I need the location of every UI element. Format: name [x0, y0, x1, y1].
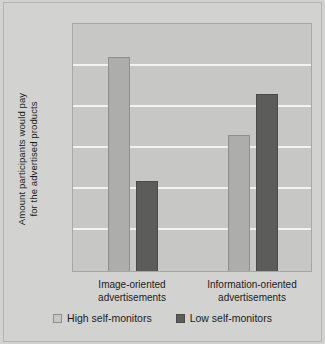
y-axis-title-text: Amount participants would pay for the ad…: [16, 93, 41, 225]
category-label-image-oriented: Image-oriented advertisements: [62, 278, 202, 304]
bar-low-self-monitors-group-1: [256, 94, 278, 271]
plot-area: [72, 23, 312, 272]
legend-label: High self-monitors: [67, 312, 152, 324]
bar-low-self-monitors-group-0: [136, 181, 158, 271]
bar-high-self-monitors-group-0: [108, 57, 130, 271]
legend-item-low-self-monitors[interactable]: Low self-monitors: [176, 312, 272, 324]
category-label-information-oriented: Information-oriented advertisements: [182, 278, 322, 304]
chart-legend: High self-monitorsLow self-monitors: [0, 312, 325, 324]
y-axis-title: Amount participants would pay for the ad…: [11, 44, 45, 274]
bar-high-self-monitors-group-1: [228, 135, 250, 271]
legend-swatch-icon: [53, 314, 62, 323]
legend-item-high-self-monitors[interactable]: High self-monitors: [53, 312, 152, 324]
legend-swatch-icon: [176, 314, 185, 323]
bar-chart-figure: Amount participants would pay for the ad…: [0, 0, 325, 344]
legend-label: Low self-monitors: [190, 312, 272, 324]
